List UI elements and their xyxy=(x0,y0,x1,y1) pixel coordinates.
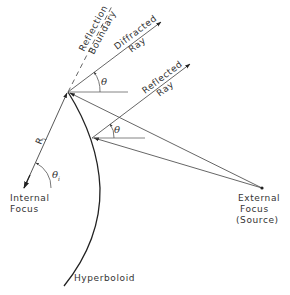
theta-i-label: θ i xyxy=(52,169,60,182)
external-focus-label: External Focus (Source) xyxy=(236,193,280,225)
r-i-label: R i xyxy=(34,135,48,147)
theta-label-lower: θ xyxy=(114,124,120,135)
internal-focus-arrow xyxy=(24,175,30,188)
internal-focus-label-line1: Internal xyxy=(10,193,50,203)
reflected-ray-label: Reflected Ray xyxy=(140,59,191,104)
hyperboloid-diagram: Reflection Boundary Diffracted Ray Refle… xyxy=(0,0,290,295)
theta-arc-upper xyxy=(94,72,100,92)
external-focus-point xyxy=(260,186,263,189)
hyperboloid-label: Hyperboloid xyxy=(74,273,135,283)
reflection-boundary-label: Reflection Boundary xyxy=(77,3,118,57)
incident-ray-to-surface xyxy=(94,138,262,188)
theta-label-upper: θ xyxy=(101,76,107,87)
internal-focus-label-line2: Focus xyxy=(10,204,39,214)
theta-i-arc xyxy=(36,163,51,188)
theta-i-subscript: i xyxy=(58,175,60,182)
hyperboloid-curve xyxy=(64,92,100,286)
external-focus-label-line2: Focus xyxy=(240,204,269,214)
external-focus-label-line1: External xyxy=(238,193,280,203)
internal-focus-label: Internal Focus xyxy=(10,193,50,214)
external-focus-label-line3: (Source) xyxy=(236,215,279,225)
